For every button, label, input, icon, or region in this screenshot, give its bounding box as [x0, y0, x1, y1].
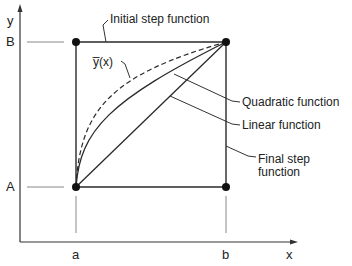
point-bB — [222, 38, 230, 46]
x-axis-arrow-icon — [290, 240, 298, 245]
y-tick-B: B — [6, 35, 15, 48]
quadratic-label: Quadratic function — [242, 96, 339, 109]
diagram-svg — [0, 0, 352, 266]
point-bA — [222, 183, 230, 191]
leader-quadratic — [174, 74, 240, 102]
diagram-canvas: y x a b A B Initial step function y̅(x) … — [0, 0, 352, 266]
y-axis-arrow-icon — [18, 4, 23, 12]
leader-final-step — [226, 146, 256, 157]
point-aB — [72, 38, 80, 46]
y-axis-label: y — [7, 14, 14, 27]
ybar-label: y̅(x) — [93, 56, 113, 69]
leader-ybar — [121, 61, 130, 78]
y-tick-A: A — [6, 180, 15, 193]
leader-initial-step — [103, 20, 108, 42]
linear-label: Linear function — [242, 119, 321, 132]
point-aA — [72, 183, 80, 191]
x-tick-a: a — [72, 248, 79, 261]
final-step-label-line2: function — [258, 166, 300, 179]
initial-step-label: Initial step function — [110, 13, 209, 26]
x-axis-label: x — [286, 248, 293, 261]
x-tick-b: b — [222, 248, 229, 261]
